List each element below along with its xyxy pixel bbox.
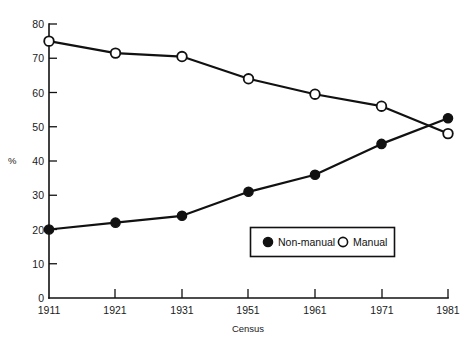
x-tick-label: 1931 (170, 304, 194, 316)
chart-legend: Non-manual Manual (251, 228, 395, 257)
data-point (310, 170, 319, 179)
x-tick-label: 1971 (370, 304, 394, 316)
y-axis-title: % (8, 155, 17, 166)
data-point (443, 114, 452, 123)
chart-figure: 80 70 60 50 40 30 20 10 0 % 1911 1921 19… (0, 0, 471, 345)
legend-label-manual: Manual (353, 236, 387, 248)
data-point (244, 187, 253, 196)
data-point (111, 218, 120, 227)
x-axis-tick-labels: 1911 1921 1931 1951 1961 1971 1981 (38, 304, 460, 316)
y-tick-label: 60 (32, 87, 44, 99)
data-point (310, 89, 320, 99)
x-axis-title: Census (232, 323, 264, 334)
y-tick-label: 70 (32, 52, 44, 64)
y-tick-label: 30 (32, 189, 44, 201)
data-point (377, 139, 386, 148)
series-markers-non-manual (44, 114, 452, 235)
data-point (377, 101, 387, 111)
y-tick-label: 80 (32, 18, 44, 30)
y-tick-label: 0 (38, 292, 44, 304)
legend-marker-open-circle (338, 237, 347, 246)
y-tick-label: 20 (32, 224, 44, 236)
legend-label-non-manual: Non-manual (278, 236, 335, 248)
x-tick-label: 1921 (103, 304, 127, 316)
x-tick-label: 1951 (236, 304, 260, 316)
y-tick-label: 50 (32, 121, 44, 133)
x-tick-label: 1911 (38, 304, 61, 316)
x-tick-label: 1961 (303, 304, 327, 316)
y-tick-label: 10 (32, 258, 44, 270)
data-point (244, 74, 254, 84)
data-point (177, 211, 186, 220)
data-point (111, 48, 121, 58)
series-line-manual (49, 41, 448, 133)
series-line-non-manual (49, 118, 448, 229)
legend-marker-filled-circle (263, 237, 272, 246)
data-point (177, 52, 187, 62)
y-axis-tick-labels: 80 70 60 50 40 30 20 10 0 (32, 18, 44, 304)
data-point (443, 129, 453, 139)
data-point (44, 36, 54, 46)
line-chart-plot: 80 70 60 50 40 30 20 10 0 % 1911 1921 19… (0, 0, 471, 345)
data-point (44, 225, 53, 234)
y-tick-label: 40 (32, 155, 44, 167)
x-axis-ticks (115, 289, 448, 298)
x-tick-label: 1981 (436, 304, 460, 316)
